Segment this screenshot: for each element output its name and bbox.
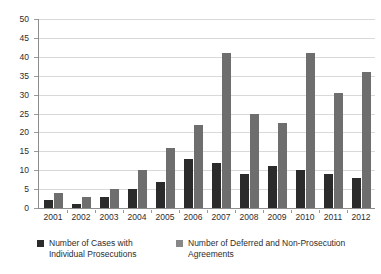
bar-chart: 50454035302520151050 2001200220032004200… xyxy=(0,0,381,274)
y-axis-tick-label: 35 xyxy=(0,72,29,81)
bar-group xyxy=(263,18,291,208)
bar xyxy=(240,174,249,208)
y-axis-tick-label: 20 xyxy=(0,128,29,137)
legend-swatch-icon xyxy=(37,240,44,247)
bar-group xyxy=(67,18,95,208)
x-axis-labels: 2001200220032004200520062007200820092010… xyxy=(39,210,375,226)
x-axis-tick-label: 2006 xyxy=(179,212,207,222)
bar-groups xyxy=(39,0,375,209)
bar xyxy=(306,53,315,208)
bar xyxy=(138,170,147,208)
x-axis-tick-label: 2008 xyxy=(235,212,263,222)
y-axis-tick-label: 0 xyxy=(0,204,29,213)
bar-group xyxy=(347,18,375,208)
y-axis-tick-label: 30 xyxy=(0,91,29,100)
x-axis-tick-mark xyxy=(207,210,208,213)
bar xyxy=(110,189,119,208)
x-axis-tick-mark xyxy=(263,210,264,213)
x-axis-tick-label: 2011 xyxy=(319,212,347,222)
legend-label: Number of Deferred and Non-Prosecution A… xyxy=(188,238,376,260)
y-axis-tick-label: 5 xyxy=(0,185,29,194)
bar-group xyxy=(207,18,235,208)
y-axis-tick-label: 25 xyxy=(0,110,29,119)
bar xyxy=(100,197,109,208)
bar xyxy=(72,204,81,208)
x-axis-tick-label: 2010 xyxy=(291,212,319,222)
bar-group xyxy=(291,18,319,208)
x-axis-tick-mark xyxy=(235,210,236,213)
x-axis-tick-label: 2003 xyxy=(95,212,123,222)
bar xyxy=(184,159,193,208)
bar xyxy=(82,197,91,208)
plot-area: 50454035302520151050 2001200220032004200… xyxy=(0,0,381,236)
x-axis-tick-label: 2002 xyxy=(67,212,95,222)
bar xyxy=(362,72,371,208)
x-axis-tick-mark xyxy=(319,210,320,213)
bar xyxy=(222,53,231,208)
bar xyxy=(334,93,343,208)
bar xyxy=(352,178,361,208)
x-axis-tick-mark xyxy=(95,210,96,213)
bar-group xyxy=(235,18,263,208)
bar xyxy=(128,189,137,208)
bar xyxy=(156,182,165,208)
y-axis-tick-label: 45 xyxy=(0,34,29,43)
legend-label: Number of Cases with Individual Prosecut… xyxy=(49,238,167,260)
bar xyxy=(268,166,277,208)
x-axis-tick-label: 2004 xyxy=(123,212,151,222)
bar xyxy=(250,114,259,209)
bar xyxy=(212,163,221,208)
x-axis-tick-mark xyxy=(347,210,348,213)
x-axis-tick-mark xyxy=(291,210,292,213)
x-axis-tick-label: 2012 xyxy=(347,212,375,222)
legend-item-deferred-agreements: Number of Deferred and Non-Prosecution A… xyxy=(176,238,376,260)
bar-group xyxy=(319,18,347,208)
x-axis-tick-label: 2005 xyxy=(151,212,179,222)
x-axis-tick-label: 2001 xyxy=(39,212,67,222)
x-axis-tick-mark xyxy=(179,210,180,213)
bar xyxy=(54,193,63,208)
x-axis-tick-mark xyxy=(123,210,124,213)
bar xyxy=(278,123,287,208)
y-axis-tick-label: 15 xyxy=(0,147,29,156)
x-axis-tick-mark xyxy=(67,210,68,213)
bar-group xyxy=(179,18,207,208)
chart-legend: Number of Cases with Individual Prosecut… xyxy=(0,236,381,274)
bar xyxy=(166,148,175,208)
legend-item-individual-prosecutions: Number of Cases with Individual Prosecut… xyxy=(37,238,167,260)
x-axis-tick-label: 2007 xyxy=(207,212,235,222)
y-axis-tick-label: 50 xyxy=(0,15,29,24)
bar xyxy=(296,170,305,208)
bar-group xyxy=(95,18,123,208)
legend-swatch-icon xyxy=(176,240,183,247)
x-axis-tick-mark xyxy=(151,210,152,213)
x-axis-tick-label: 2009 xyxy=(263,212,291,222)
y-axis-tick-label: 10 xyxy=(0,166,29,175)
bar-group xyxy=(151,18,179,208)
y-axis-tick-label: 40 xyxy=(0,53,29,62)
bar-group xyxy=(39,18,67,208)
bar-group xyxy=(123,18,151,208)
bar xyxy=(324,174,333,208)
bar xyxy=(194,125,203,208)
y-axis: 50454035302520151050 xyxy=(0,0,34,236)
bar xyxy=(44,200,53,208)
